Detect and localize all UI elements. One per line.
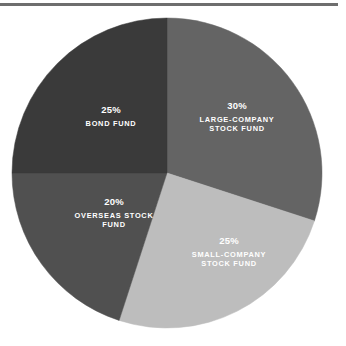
pie-chart: 25% BOND FUND 30% LARGE-COMPANY STOCK FU… (0, 0, 346, 346)
pie-slice-bond-fund (12, 18, 167, 173)
pie-slice-group (12, 18, 322, 328)
pie-chart-canvas (0, 0, 346, 346)
